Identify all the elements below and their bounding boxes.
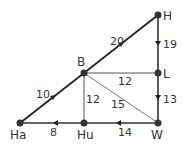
node-H [155,12,162,19]
node-label-W: W [151,128,163,142]
weight-B-Hu: 12 [86,93,100,106]
node-label-H: H [163,9,172,23]
node-label-B: B [77,55,85,69]
arrow-icon-H-L [155,41,161,46]
node-Ha [17,120,24,127]
arrow-icon-L-W [155,95,161,100]
weight-H-L: 19 [163,38,177,51]
node-Hu [81,120,88,127]
node-W [155,120,162,127]
node-label-L: L [163,67,170,81]
weight-B-W: 15 [111,98,125,111]
node-L [155,70,162,77]
weight-W-Hu: 14 [118,126,132,139]
node-B [81,70,88,77]
weight-Hu-Ha: 8 [50,126,57,139]
network-diagram: 10 20 19 13 14 8 12 12 15 H L W B Hu Ha [0,0,183,145]
node-label-Ha: Ha [10,128,26,142]
weight-Ha-B: 10 [36,88,50,101]
node-label-Hu: Hu [77,128,94,142]
weight-B-L: 12 [118,75,132,88]
weight-L-W: 13 [163,93,177,106]
weight-B-H: 20 [110,35,124,48]
